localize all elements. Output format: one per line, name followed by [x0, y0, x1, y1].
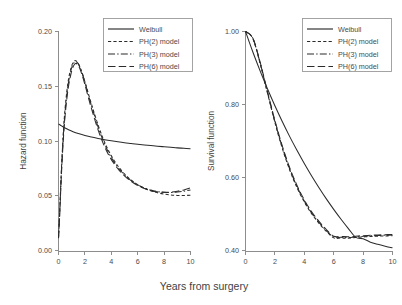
- hazard-y-axis-title: Hazard function: [19, 112, 28, 170]
- survival-legend-label-ph3: PH(3) model: [338, 50, 379, 59]
- survival-x-ticks: [246, 252, 393, 256]
- hazard-x-ticks: [59, 252, 191, 256]
- hazard-xtick-3: 6: [136, 257, 140, 266]
- hazard-xtick-0: 0: [57, 257, 61, 266]
- survival-legend-label-ph6: PH(6) model: [338, 62, 379, 71]
- hazard-ytick-0: 0.20: [38, 27, 52, 36]
- hazard-ytick-2: 0.10: [38, 137, 52, 146]
- hazard-series-group: [59, 61, 191, 239]
- hazard-xtick-1: 2: [83, 257, 87, 266]
- survival-ytick-3: 0.40: [225, 246, 239, 255]
- survival-ytick-1: 0.80: [225, 100, 239, 109]
- survival-xtick-0: 0: [244, 257, 248, 266]
- hazard-legend-label-weibull: Weibull: [139, 25, 163, 34]
- hazard-legend[interactable]: Weibull PH(2) model PH(3) model PH(6) mo…: [104, 19, 193, 72]
- hazard-ytick-3: 0.05: [38, 191, 52, 200]
- survival-x-ticklabels: 0 2 4 6 8 10: [244, 257, 397, 266]
- survival-legend-label-weibull: Weibull: [338, 25, 362, 34]
- hazard-legend-label-ph2: PH(2) model: [139, 37, 180, 46]
- hazard-curve-ph6: [59, 63, 191, 238]
- survival-ytick-2: 0.60: [225, 173, 239, 182]
- hazard-legend-label-ph6: PH(6) model: [139, 62, 180, 71]
- hazard-y-ticks: [55, 32, 59, 251]
- survival-ytick-0: 1.00: [225, 27, 239, 36]
- survival-panel: 1.00 0.80 0.60 0.40 0 2 4 6 8 10 Surviva…: [207, 19, 397, 267]
- survival-y-ticks: [242, 32, 246, 251]
- figure-canvas: 0.20 0.15 0.10 0.05 0.00 0 2 4 6 8 10 Ha…: [0, 0, 402, 305]
- survival-xtick-5: 10: [389, 257, 397, 266]
- survival-y-ticklabels: 1.00 0.80 0.60 0.40: [225, 27, 239, 255]
- hazard-curve-ph2: [59, 61, 191, 238]
- survival-legend-label-ph2: PH(2) model: [338, 37, 379, 46]
- hazard-curve-ph3: [59, 62, 191, 238]
- survival-xtick-1: 2: [273, 257, 277, 266]
- hazard-curve-weibull: [59, 124, 191, 149]
- hazard-ytick-4: 0.00: [38, 246, 52, 255]
- survival-y-axis-title: Survival function: [207, 111, 216, 172]
- survival-xtick-3: 6: [332, 257, 336, 266]
- survival-xtick-4: 8: [361, 257, 365, 266]
- hazard-xtick-2: 4: [109, 257, 113, 266]
- shared-x-axis-label: Years from surgery: [160, 280, 249, 292]
- hazard-y-ticklabels: 0.20 0.15 0.10 0.05 0.00: [38, 27, 52, 255]
- hazard-xtick-5: 10: [187, 257, 195, 266]
- survival-legend[interactable]: Weibull PH(2) model PH(3) model PH(6) mo…: [303, 19, 392, 72]
- hazard-x-ticklabels: 0 2 4 6 8 10: [57, 257, 195, 266]
- hazard-ytick-1: 0.15: [38, 82, 52, 91]
- hazard-panel: 0.20 0.15 0.10 0.05 0.00 0 2 4 6 8 10 Ha…: [19, 19, 195, 267]
- hazard-xtick-4: 8: [162, 257, 166, 266]
- survival-xtick-2: 4: [302, 257, 306, 266]
- hazard-legend-label-ph3: PH(3) model: [139, 50, 180, 59]
